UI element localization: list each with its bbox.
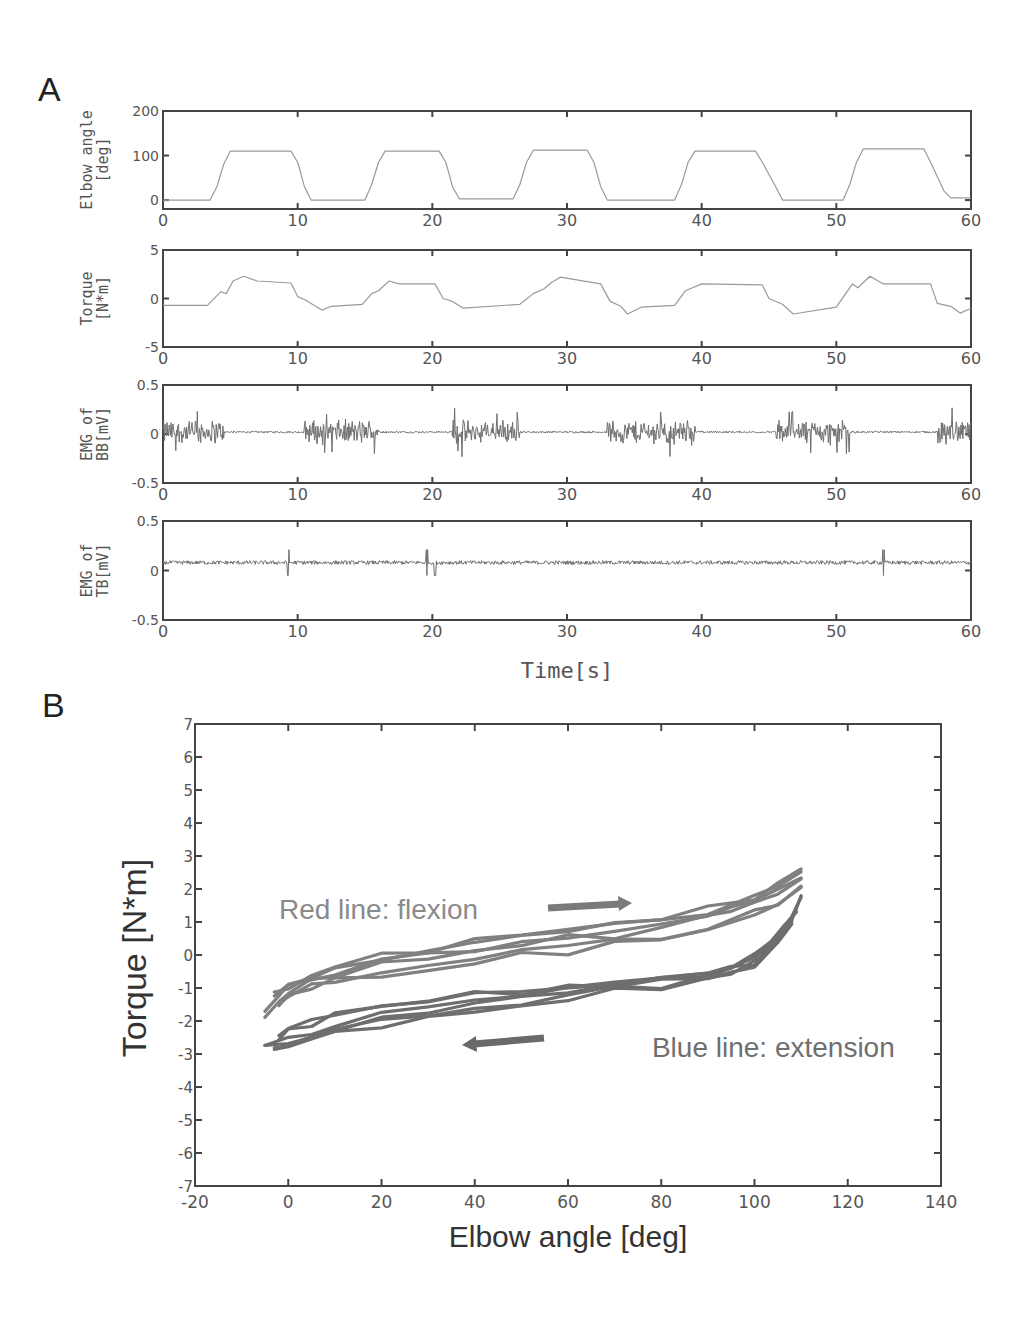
y-tick-label: 5: [183, 782, 193, 800]
y-tick-label: -0.5: [132, 475, 159, 491]
y-tick-label: 0: [150, 291, 159, 307]
y-axis-label-unit: [deg]: [94, 137, 112, 182]
x-tick-label: 50: [826, 485, 846, 504]
subplot-A4: 0102030405060-0.500.5EMG ofTB[mV]Time[s]: [78, 513, 981, 683]
y-tick-label: -7: [178, 1178, 193, 1196]
data-line: [163, 276, 971, 314]
x-tick-label: 40: [691, 622, 711, 641]
emg-tb-signal: [163, 550, 971, 576]
x-tick-label: 10: [287, 211, 307, 230]
x-tick-label: 50: [826, 211, 846, 230]
x-tick-label: 0: [158, 622, 168, 641]
subplot-A3: 0102030405060-0.500.5EMG ofBB[mV]: [78, 377, 981, 504]
emg-bb-signal: [163, 408, 971, 457]
axes-frame: [163, 521, 971, 620]
y-tick-label: 1: [183, 914, 193, 932]
flexion-arrow-icon: [548, 896, 632, 911]
y-tick-label: 200: [132, 103, 159, 119]
x-tick-label: 60: [961, 622, 981, 641]
y-tick-label: 5: [150, 242, 159, 258]
x-tick-label: 0: [158, 485, 168, 504]
y-tick-label: 6: [183, 749, 193, 767]
y-axis-label-unit: [N*m]: [94, 276, 112, 321]
x-tick-label: 30: [557, 485, 577, 504]
axes-frame: [163, 111, 971, 209]
x-tick-label: 60: [961, 349, 981, 368]
x-tick-label: 50: [826, 349, 846, 368]
y-tick-label: 0: [150, 563, 159, 579]
x-tick-label: 40: [691, 485, 711, 504]
data-line: [163, 149, 971, 200]
x-tick-label: 140: [925, 1192, 957, 1212]
x-tick-label: 80: [650, 1192, 672, 1212]
y-tick-label: 0.5: [137, 513, 159, 529]
subplot-A1: 01020304050600100200Elbow angle[deg]: [78, 103, 981, 230]
y-tick-label: -6: [178, 1145, 193, 1163]
y-tick-label: 0: [150, 192, 159, 208]
subplot-B: -20020406080100120140-7-6-5-4-3-2-101234…: [115, 716, 957, 1253]
y-tick-label: 0: [183, 947, 193, 965]
x-tick-label: 30: [557, 622, 577, 641]
x-tick-label: 0: [283, 1192, 294, 1212]
x-tick-label: 30: [557, 349, 577, 368]
y-tick-label: -5: [145, 339, 159, 355]
x-tick-label: 10: [287, 349, 307, 368]
x-tick-label: 0: [158, 349, 168, 368]
y-tick-label: -2: [178, 1013, 193, 1031]
x-tick-label: 60: [961, 211, 981, 230]
figure-canvas: 01020304050600100200Elbow angle[deg]0102…: [0, 0, 1033, 1319]
y-axis-label-unit: TB[mV]: [94, 543, 112, 597]
x-tick-label: 120: [832, 1192, 864, 1212]
x-tick-label: 40: [691, 211, 711, 230]
x-tick-label: 20: [371, 1192, 393, 1212]
y-tick-label: 0: [150, 426, 159, 442]
y-tick-label: 100: [132, 148, 159, 164]
y-tick-label: -3: [178, 1046, 193, 1064]
x-tick-label: 20: [422, 211, 442, 230]
subplot-A2: 0102030405060-505Torque[N*m]: [78, 242, 981, 368]
axes-frame: [163, 250, 971, 347]
x-tick-label: 40: [691, 349, 711, 368]
x-tick-label: 40: [464, 1192, 486, 1212]
x-tick-label: 60: [961, 485, 981, 504]
y-tick-label: 2: [183, 881, 193, 899]
y-axis-label-unit: BB[mV]: [94, 407, 112, 461]
x-tick-label: 10: [287, 622, 307, 641]
y-tick-label: 0.5: [137, 377, 159, 393]
y-tick-label: -4: [178, 1079, 193, 1097]
x-tick-label: 30: [557, 211, 577, 230]
x-axis-label: Time[s]: [521, 658, 614, 683]
x-tick-label: 20: [422, 485, 442, 504]
y-tick-label: -5: [178, 1112, 193, 1130]
extension-annotation: Blue line: extension: [652, 1032, 895, 1063]
y-tick-label: -1: [178, 980, 193, 998]
extension-arrow-icon: [462, 1036, 544, 1052]
y-axis-label: Torque [N*m]: [115, 859, 153, 1057]
x-axis-label: Elbow angle [deg]: [449, 1220, 688, 1253]
x-tick-label: 0: [158, 211, 168, 230]
x-tick-label: 20: [422, 622, 442, 641]
y-tick-label: 7: [183, 716, 193, 734]
x-tick-label: 60: [557, 1192, 579, 1212]
y-tick-label: -0.5: [132, 612, 159, 628]
x-tick-label: 10: [287, 485, 307, 504]
x-tick-label: 50: [826, 622, 846, 641]
x-tick-label: 100: [738, 1192, 770, 1212]
y-tick-label: 3: [183, 848, 193, 866]
y-tick-label: 4: [183, 815, 193, 833]
x-tick-label: 20: [422, 349, 442, 368]
flexion-annotation: Red line: flexion: [279, 894, 478, 925]
